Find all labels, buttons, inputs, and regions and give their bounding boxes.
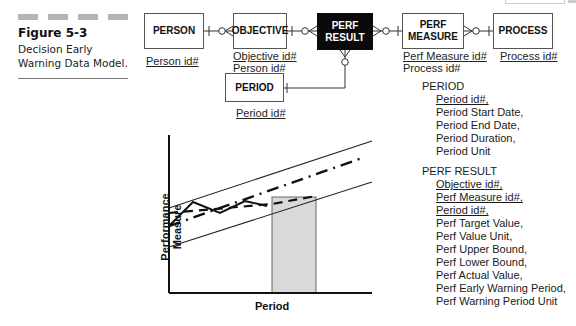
upper-bound-line [169,141,372,208]
x-axis-label: Period [255,300,289,312]
performance-chart [0,0,576,326]
y-axis-label: Performance Measure [159,182,183,272]
